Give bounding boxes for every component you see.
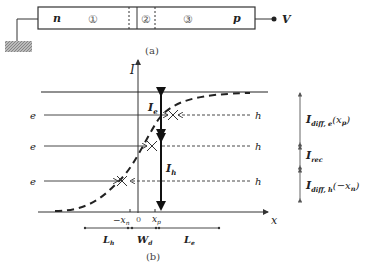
hole-label-3: h (255, 176, 261, 187)
electron-label-3: e (30, 176, 36, 187)
recombination-cross-icon (168, 110, 178, 120)
electron-label-2: e (30, 141, 36, 152)
x-axis-label: x (271, 214, 278, 227)
ground-wire (17, 19, 38, 41)
tick-label-zero: 0 (136, 215, 141, 224)
terminal-dot-icon (272, 17, 277, 22)
y-axis-label: I (129, 63, 135, 77)
diff-h-current-label: Idiff, h(−xn) (305, 179, 359, 194)
tick-label-xp: xp (152, 214, 161, 226)
hole-label-2: h (255, 141, 261, 152)
tick-label-neg-xn: −xn (113, 215, 130, 226)
ground-icon (5, 41, 32, 52)
voltage-label: V (282, 13, 292, 26)
region-1-label: ① (88, 13, 98, 26)
region-2-label: ② (141, 13, 151, 26)
hole-label-1: h (255, 110, 261, 121)
pn-junction-diagram: n ① ② ③ p V (a) I x (0, 0, 376, 263)
n-region-label: n (53, 12, 61, 25)
recombination-cross-icon (147, 141, 157, 151)
depletion-width-label: Wd (137, 234, 153, 246)
diffusion-length-e-label: Le (183, 234, 195, 246)
diffusion-length-h-label: Lh (102, 234, 114, 246)
p-region-label: p (233, 12, 241, 25)
diff-e-current-label: Idiff, e(xp) (305, 113, 350, 128)
electron-current-label: Ie (147, 101, 158, 116)
panel-a: n ① ② ③ p V (a) (5, 7, 292, 56)
panel-b: I x Ie Ih e e e h h h (30, 60, 359, 262)
hole-current-label: Ih (165, 162, 176, 177)
region-3-label: ③ (183, 13, 193, 26)
caption-b: (b) (146, 251, 160, 262)
rec-current-label: Irec (305, 149, 323, 164)
electron-label-1: e (30, 110, 36, 121)
caption-a: (a) (145, 45, 159, 56)
